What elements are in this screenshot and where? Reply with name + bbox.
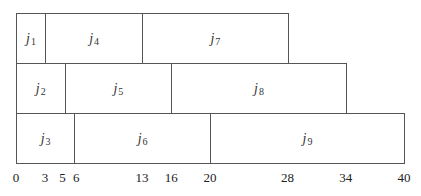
- job-label: j2: [36, 81, 46, 97]
- job-block-j5: j5: [65, 63, 173, 114]
- job-label: j5: [113, 81, 123, 97]
- axis-tick-label: 13: [136, 170, 149, 186]
- job-block-j4: j4: [45, 13, 143, 64]
- job-label: j8: [254, 81, 264, 97]
- axis-tick-label: 28: [281, 170, 294, 186]
- job-label: j1: [26, 31, 36, 47]
- schedule-diagram: j1j4j7j2j5j8j3j6j90356131620283440: [0, 0, 421, 196]
- job-label: j3: [41, 131, 51, 147]
- axis-tick-label: 5: [59, 170, 66, 186]
- job-label: j4: [89, 31, 99, 47]
- axis-tick-label: 34: [339, 170, 352, 186]
- job-label: j6: [138, 131, 148, 147]
- job-block-j6: j6: [74, 113, 211, 164]
- job-block-j3: j3: [16, 113, 75, 164]
- job-label: j9: [303, 131, 313, 147]
- job-label: j7: [210, 31, 220, 47]
- axis-tick-label: 16: [165, 170, 178, 186]
- axis-tick-label: 3: [42, 170, 49, 186]
- job-block-j9: j9: [210, 113, 405, 164]
- axis-tick-label: 20: [204, 170, 217, 186]
- axis-tick-label: 6: [73, 170, 80, 186]
- axis-tick-label: 0: [13, 170, 20, 186]
- job-block-j1: j1: [16, 13, 46, 64]
- job-block-j8: j8: [171, 63, 347, 114]
- job-block-j2: j2: [16, 63, 66, 114]
- job-block-j7: j7: [142, 13, 289, 64]
- axis-tick-label: 40: [398, 170, 411, 186]
